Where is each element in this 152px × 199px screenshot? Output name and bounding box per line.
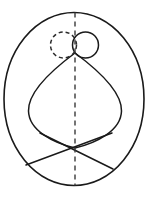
diagram-canvas: Geometric line diagram Outer ellipse con…	[0, 0, 152, 199]
diagonal-chord-left-down	[26, 133, 112, 165]
geometric-line-figure: Geometric line diagram Outer ellipse con…	[0, 0, 152, 199]
